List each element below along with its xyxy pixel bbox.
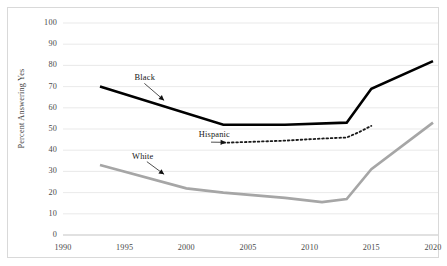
gridlines-group [63,23,438,235]
y-tick-label: 60 [31,103,57,112]
y-tick-label: 30 [31,166,57,175]
annotation-arrowhead [221,140,226,145]
y-tick-label: 10 [31,209,57,218]
x-tick-label: 2005 [228,243,268,252]
series-label-white: White [132,152,153,161]
y-tick-label: 100 [31,18,57,27]
series-line-hispanic [223,126,371,143]
x-tick-label: 2000 [166,243,206,252]
chart-figure: Percent Answering Yes 010203040506070809… [0,0,447,266]
y-tick-label: 80 [31,60,57,69]
y-tick-label: 40 [31,145,57,154]
y-tick-label: 70 [31,82,57,91]
series-group [100,61,433,202]
x-tick-label: 1990 [43,243,83,252]
y-tick-label: 20 [31,188,57,197]
x-tick-label: 2015 [351,243,391,252]
series-line-black [100,61,433,125]
x-tick-label: 1995 [105,243,145,252]
y-tick-label: 50 [31,124,57,133]
y-tick-label: 0 [31,230,57,239]
x-tick-label: 2020 [413,243,447,252]
series-label-black: Black [135,73,156,82]
series-label-hispanic: Hispanic [199,130,230,139]
series-line-white [100,123,433,203]
x-tick-label: 2010 [290,243,330,252]
y-tick-label: 90 [31,39,57,48]
